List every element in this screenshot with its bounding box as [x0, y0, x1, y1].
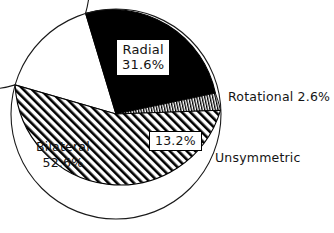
slice-label-bilateral-name: Bilateral: [36, 139, 90, 155]
slice-label-radial-value: 31.6%: [122, 57, 164, 72]
pie-chart: Radial 31.6% 13.2% Bilateral 52.6% Rotat…: [0, 0, 334, 233]
slice-label-rotational: Rotational 2.6%: [228, 90, 330, 104]
slice-label-unsymmetric-value: 13.2%: [149, 131, 202, 151]
slice-label-radial-name: Radial: [122, 42, 164, 57]
slice-label-radial: Radial 31.6%: [116, 39, 170, 76]
slice-label-bilateral: Bilateral 52.6%: [36, 139, 90, 171]
slice-label-bilateral-value: 52.6%: [36, 155, 90, 171]
pie-chart-canvas: [0, 0, 334, 233]
slice-label-unsymmetric-name: Unsymmetric: [215, 151, 301, 165]
